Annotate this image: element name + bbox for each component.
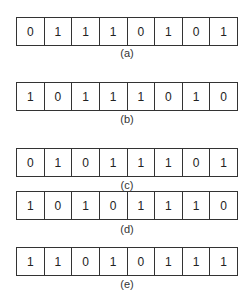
bit-cell: 1	[127, 83, 155, 110]
bit-cell: 0	[209, 83, 237, 110]
bit-register-d: 1 0 1 0 1 1 1 0	[16, 191, 238, 220]
bit-cell: 0	[17, 149, 44, 176]
caption-a: (a)	[16, 47, 238, 59]
bit-cell: 1	[71, 18, 99, 45]
bit-cell: 0	[71, 149, 99, 176]
bit-cell: 1	[209, 248, 237, 275]
bit-cell: 1	[71, 192, 99, 219]
bit-cell: 1	[17, 83, 44, 110]
bit-cell: 1	[182, 248, 210, 275]
bit-cell: 1	[44, 149, 72, 176]
bit-cell: 1	[99, 18, 127, 45]
bit-cell: 1	[44, 248, 72, 275]
bit-register-e: 1 1 0 1 0 1 1 1	[16, 247, 238, 276]
bit-cell: 0	[209, 192, 237, 219]
bit-cell: 1	[154, 149, 182, 176]
bit-register-a: 0 1 1 1 0 1 0 1	[16, 17, 238, 46]
bit-cell: 0	[127, 18, 155, 45]
bit-cell: 1	[99, 248, 127, 275]
bit-cell: 1	[154, 248, 182, 275]
bit-cell: 1	[17, 248, 44, 275]
bit-cell: 0	[17, 18, 44, 45]
caption-c: (c)	[16, 179, 238, 191]
bit-cell: 0	[44, 192, 72, 219]
caption-b: (b)	[16, 113, 238, 125]
bit-cell: 0	[182, 149, 210, 176]
bit-cell: 1	[44, 18, 72, 45]
bit-cell: 1	[154, 192, 182, 219]
bit-cell: 1	[154, 18, 182, 45]
bit-cell: 0	[99, 192, 127, 219]
bit-cell: 1	[71, 83, 99, 110]
bit-cell: 1	[127, 149, 155, 176]
caption-e: (e)	[16, 278, 238, 290]
bit-cell: 0	[71, 248, 99, 275]
bit-cell: 0	[154, 83, 182, 110]
bit-cell: 0	[44, 83, 72, 110]
caption-d: (d)	[16, 223, 238, 235]
bit-cell: 1	[209, 18, 237, 45]
bit-register-c: 0 1 0 1 1 1 0 1	[16, 148, 238, 177]
bit-cell: 1	[99, 149, 127, 176]
bit-cell: 1	[127, 192, 155, 219]
bit-cell: 1	[182, 192, 210, 219]
bit-cell: 1	[182, 83, 210, 110]
bit-cell: 0	[127, 248, 155, 275]
bit-cell: 1	[209, 149, 237, 176]
bit-register-b: 1 0 1 1 1 0 1 0	[16, 82, 238, 111]
bit-cell: 0	[182, 18, 210, 45]
bit-cell: 1	[99, 83, 127, 110]
bit-cell: 1	[17, 192, 44, 219]
